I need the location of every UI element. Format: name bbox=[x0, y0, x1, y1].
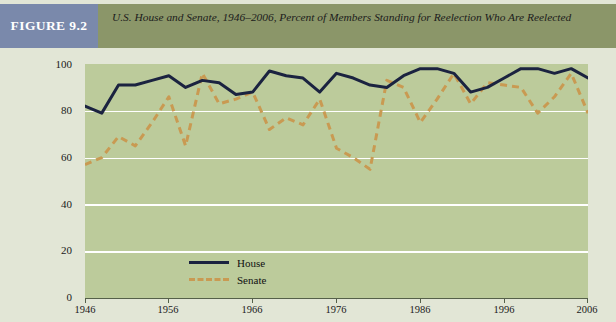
figure-number-label: FIGURE 9.2 bbox=[11, 18, 88, 34]
figure-container: FIGURE 9.2 U.S. House and Senate, 1946–2… bbox=[0, 0, 616, 322]
legend-item-senate: Senate bbox=[189, 271, 266, 288]
house-line bbox=[85, 69, 588, 113]
x-tick-mark-2006 bbox=[587, 298, 588, 303]
chart-legend: House Senate bbox=[189, 254, 266, 288]
x-axis-tick-1986: 1986 bbox=[395, 304, 445, 315]
chart-body: 100 80 60 40 20 0 House bbox=[0, 48, 616, 322]
x-tick-mark-1946 bbox=[85, 298, 86, 303]
y-axis-tick-60: 60 bbox=[32, 151, 72, 163]
y-axis-tick-20: 20 bbox=[32, 244, 72, 256]
x-axis-tick-1946: 1946 bbox=[60, 304, 110, 315]
legend-label-house: House bbox=[237, 257, 265, 269]
x-axis-tick-1966: 1966 bbox=[227, 304, 277, 315]
senate-line-swatch bbox=[189, 278, 229, 281]
y-axis-tick-40: 40 bbox=[32, 198, 72, 210]
x-tick-mark-1956 bbox=[168, 298, 169, 303]
figure-title: U.S. House and Senate, 1946–2006, Percen… bbox=[112, 10, 598, 25]
x-tick-mark-1966 bbox=[252, 298, 253, 303]
x-axis-tick-1956: 1956 bbox=[143, 304, 193, 315]
x-tick-mark-1996 bbox=[504, 298, 505, 303]
y-axis-tick-100: 100 bbox=[32, 58, 72, 70]
y-axis-tick-80: 80 bbox=[32, 104, 72, 116]
x-axis-tick-1996: 1996 bbox=[479, 304, 529, 315]
legend-label-senate: Senate bbox=[237, 274, 266, 286]
x-axis-tick-2006: 2006 bbox=[562, 304, 612, 315]
plot-area: House Senate bbox=[85, 64, 588, 298]
x-tick-mark-1986 bbox=[420, 298, 421, 303]
y-axis-tick-0: 0 bbox=[32, 291, 72, 303]
series-lines bbox=[85, 64, 588, 298]
senate-line bbox=[85, 73, 588, 169]
x-tick-mark-1976 bbox=[336, 298, 337, 303]
figure-header: FIGURE 9.2 U.S. House and Senate, 1946–2… bbox=[0, 4, 616, 48]
legend-item-house: House bbox=[189, 254, 266, 271]
figure-number-badge: FIGURE 9.2 bbox=[0, 4, 98, 48]
x-axis-tick-1976: 1976 bbox=[311, 304, 361, 315]
house-line-swatch bbox=[189, 261, 229, 264]
